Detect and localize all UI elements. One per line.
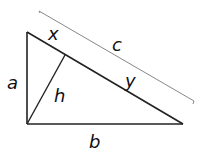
label-x: x	[47, 23, 59, 44]
side-c-hypotenuse	[27, 32, 183, 124]
triangle-diagram: x c y a h b	[0, 0, 206, 156]
label-h: h	[54, 85, 65, 106]
label-c: c	[112, 34, 122, 55]
label-b: b	[89, 131, 100, 152]
label-y: y	[124, 70, 136, 91]
label-a: a	[7, 72, 18, 93]
